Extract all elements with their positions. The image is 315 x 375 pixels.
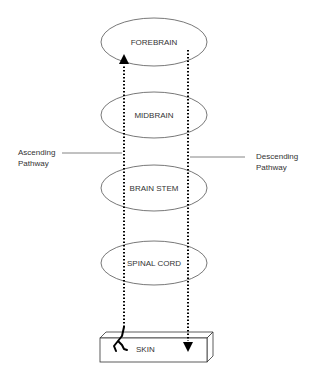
spinalcord-label: SPINAL CORD (127, 259, 181, 268)
ascending-label-line1: Ascending (18, 148, 55, 157)
forebrain-label: FOREBRAIN (131, 38, 178, 47)
ascending-label-line2: Pathway (18, 159, 49, 168)
neural-pathway-diagram: FOREBRAIN MIDBRAIN BRAIN STEM SPINAL COR… (0, 0, 315, 375)
descending-label-line2: Pathway (256, 163, 287, 172)
skin-block (100, 332, 213, 362)
brainstem-label: BRAIN STEM (130, 184, 179, 193)
skin-label: SKIN (136, 345, 155, 354)
descending-label-line1: Descending (256, 152, 298, 161)
midbrain-label: MIDBRAIN (134, 111, 173, 120)
